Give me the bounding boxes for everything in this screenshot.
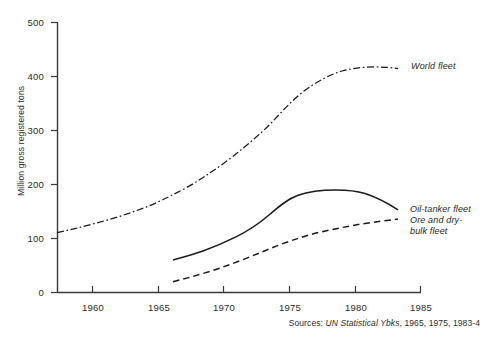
- x-tick-label-1970: 1970: [204, 302, 244, 313]
- source-prefix: Sources:: [289, 318, 323, 328]
- y-tick-label-0: 0: [10, 287, 44, 298]
- y-tick-label-100: 100: [10, 233, 44, 244]
- series-label-ore-dry-bulk-fleet: Ore and dry- bulk fleet: [410, 215, 462, 237]
- source-publication: UN Statistical Ybks: [326, 318, 400, 328]
- y-axis-ticks: [51, 23, 57, 293]
- x-axis-ticks: [93, 286, 421, 292]
- x-tick-label-1975: 1975: [270, 302, 310, 313]
- x-tick-label-1965: 1965: [139, 302, 179, 313]
- series-line-world-fleet: [57, 67, 398, 233]
- source-note: Sources: UN Statistical Ybks, 1965, 1975…: [289, 318, 480, 328]
- chart-plot-area: [0, 0, 490, 341]
- y-axis-title: Million gross registered tons: [16, 76, 26, 196]
- series-label-ore-dry-bulk-fleet-line2: bulk fleet: [410, 226, 448, 236]
- series-line-oil-tanker-fleet: [173, 190, 398, 260]
- x-tick-label-1980: 1980: [336, 302, 376, 313]
- y-tick-label-500: 500: [10, 17, 44, 28]
- series-label-ore-dry-bulk-fleet-line1: Ore and dry-: [410, 215, 462, 225]
- x-tick-label-1960: 1960: [73, 302, 113, 313]
- x-tick-label-1985: 1985: [401, 302, 441, 313]
- source-years: , 1965, 1975, 1983-4: [400, 318, 480, 328]
- chart-figure: 500 400 300 200 100 0 1960 1965 1970 197…: [0, 0, 490, 341]
- series-label-oil-tanker-fleet: Oil-tanker fleet: [410, 204, 471, 215]
- series-label-world-fleet: World fleet: [411, 61, 456, 72]
